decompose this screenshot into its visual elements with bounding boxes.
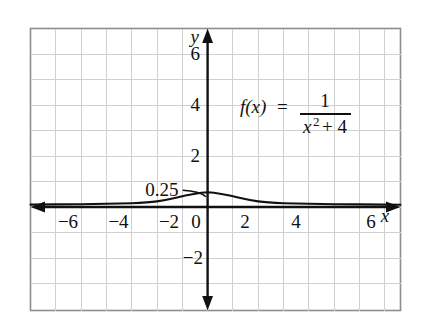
formula-denominator-rest: + 4 xyxy=(322,116,347,137)
plot-frame xyxy=(31,29,401,311)
x-tick-label-2: 2 xyxy=(240,211,250,232)
x-tick-label-zero: 0 xyxy=(191,211,201,232)
formula-equals-sign: = xyxy=(277,96,288,117)
formula-numerator: 1 xyxy=(320,90,330,111)
y-tick-label-2: 2 xyxy=(191,145,201,166)
x-tick-label-neg6: −6 xyxy=(58,211,78,232)
formula-denominator-base: x xyxy=(302,116,312,137)
y-axis-label: y xyxy=(189,26,200,47)
annotation-max-value: 0.25 xyxy=(145,179,178,200)
formula-left-hand-side: f(x) xyxy=(240,96,266,118)
y-tick-label-neg2: −2 xyxy=(183,247,203,268)
y-tick-label-4: 4 xyxy=(191,94,201,115)
x-tick-label-neg2: −2 xyxy=(159,211,179,232)
x-tick-label-6: 6 xyxy=(366,211,376,232)
x-tick-label-4: 4 xyxy=(291,211,301,232)
x-axis-label: x xyxy=(380,205,390,226)
graph-figure: 0.25 −6 −4 −2 0 2 4 6 6 4 2 −2 x y f(x) … xyxy=(0,0,426,322)
formula-denominator-exponent: 2 xyxy=(313,114,320,129)
x-tick-label-neg4: −4 xyxy=(108,211,129,232)
